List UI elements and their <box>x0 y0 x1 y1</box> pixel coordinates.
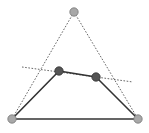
point-bottom-right <box>134 115 142 123</box>
point-mid-left <box>55 67 63 75</box>
dotted-line <box>12 12 74 119</box>
dotted-line <box>74 12 138 119</box>
dotted-lines <box>12 12 138 119</box>
diagram-canvas <box>0 0 149 133</box>
point-mid-right <box>92 73 100 81</box>
points <box>8 8 142 123</box>
point-bottom-left <box>8 115 16 123</box>
solid-line <box>59 71 96 77</box>
solid-lines <box>12 71 138 119</box>
solid-line <box>12 71 59 119</box>
point-apex <box>70 8 78 16</box>
